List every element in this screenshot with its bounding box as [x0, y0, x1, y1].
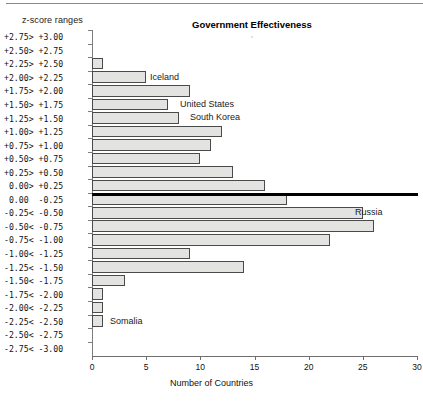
- x-axis-tick-label: 0: [80, 362, 104, 372]
- y-axis-label: +1.50> +1.75: [4, 100, 90, 110]
- x-axis-tick-label: 20: [297, 362, 321, 372]
- x-axis-tick-label: 30: [405, 362, 423, 372]
- x-axis-tick-label: 25: [351, 362, 375, 372]
- y-axis-label: +0.25> +0.50: [4, 168, 90, 178]
- x-axis-title: Number of Countries: [0, 378, 423, 388]
- y-axis-label: -0.75< -1.00: [4, 235, 90, 245]
- x-axis-tick: [309, 356, 310, 360]
- y-axis-label: -0.25< -0.50: [4, 208, 90, 218]
- y-axis-tick: [88, 342, 92, 343]
- x-axis-tick: [200, 356, 201, 360]
- y-axis-label: -2.25< -2.50: [4, 317, 90, 327]
- bar: [92, 180, 265, 192]
- x-axis-tick-label: 10: [188, 362, 212, 372]
- bar: [92, 315, 103, 327]
- x-axis-tick: [363, 356, 364, 360]
- y-axis-label: +1.00> +1.25: [4, 127, 90, 137]
- annotation-label: Iceland: [150, 72, 179, 82]
- y-axis-label: +2.25> +2.50: [4, 59, 90, 69]
- y-axis-tick: [88, 44, 92, 45]
- y-axis-label: +0.75> +1.00: [4, 141, 90, 151]
- y-axis-label: -2.50< -2.75: [4, 330, 90, 340]
- y-axis-label: -2.00< -2.25: [4, 303, 90, 313]
- y-axis-label: 0.00> +0.25: [4, 181, 90, 191]
- bar: [92, 58, 103, 70]
- bar: [92, 302, 103, 314]
- x-axis-tick-label: 5: [134, 362, 158, 372]
- y-axis-label: +2.75> +3.00: [4, 32, 90, 42]
- bar: [92, 153, 200, 165]
- bar: [92, 248, 190, 260]
- zero-reference-line: [92, 193, 418, 196]
- zscore-ranges-header: z-score ranges: [22, 15, 83, 25]
- y-axis-tick: [88, 30, 92, 31]
- bar: [92, 85, 190, 97]
- bar: [92, 234, 330, 246]
- annotation-label: Russia: [355, 207, 383, 217]
- y-axis-tick: [88, 328, 92, 329]
- y-axis-label: +2.00> +2.25: [4, 73, 90, 83]
- bar: [92, 220, 374, 232]
- bar: [92, 99, 168, 111]
- bar: [92, 71, 146, 83]
- y-axis-label: -1.75< -2.00: [4, 290, 90, 300]
- y-axis-label: +0.50> +0.75: [4, 154, 90, 164]
- x-axis-tick: [255, 356, 256, 360]
- y-axis-label: -2.75< -3.00: [4, 344, 90, 354]
- top-divider: [6, 3, 423, 4]
- y-axis-label: -1.25< -1.50: [4, 263, 90, 273]
- y-axis-label: +2.50> +2.75: [4, 46, 90, 56]
- x-axis-tick-label: 15: [243, 362, 267, 372]
- y-axis-label: -0.50< -0.75: [4, 222, 90, 232]
- bar: [92, 275, 125, 287]
- bar: [92, 261, 244, 273]
- bar: [92, 207, 363, 219]
- annotation-label: Somalia: [110, 316, 143, 326]
- y-axis-label: +1.25> +1.50: [4, 114, 90, 124]
- bar: [92, 139, 211, 151]
- x-axis-tick: [92, 356, 93, 360]
- y-axis-label: -1.00< -1.25: [4, 249, 90, 259]
- y-axis-label: +1.75> +2.00: [4, 86, 90, 96]
- bar: [92, 288, 103, 300]
- chart-title: Government Effectiveness: [192, 19, 312, 30]
- y-axis-label: -1.50< -1.75: [4, 276, 90, 286]
- x-axis-tick: [417, 356, 418, 360]
- x-axis-tick: [146, 356, 147, 360]
- annotation-label: United States: [180, 99, 234, 109]
- chart-container: z-score ranges Government Effectiveness …: [0, 0, 423, 406]
- bar: [92, 126, 222, 138]
- annotation-label: South Korea: [190, 112, 240, 122]
- speck-artifact: [251, 36, 253, 38]
- y-axis-label: 0.00 -0.25: [4, 195, 90, 205]
- bar: [92, 166, 233, 178]
- bar: [92, 112, 179, 124]
